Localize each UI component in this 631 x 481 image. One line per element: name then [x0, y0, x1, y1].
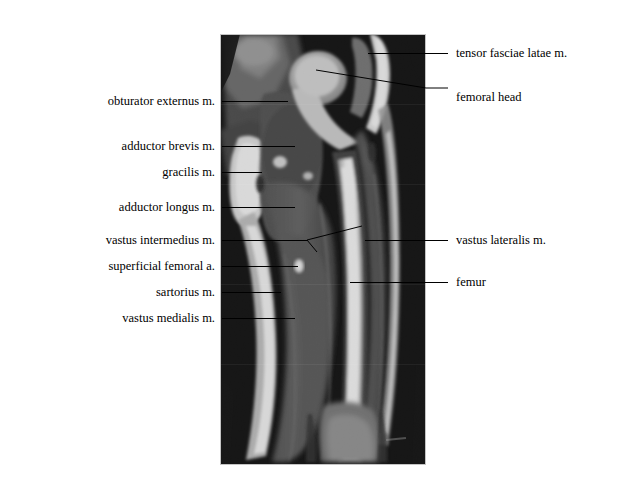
label-text: obturator externus m. [108, 94, 215, 108]
label-gracilis: gracilis m. [162, 166, 215, 179]
label-obturator-externus: obturator externus m. [108, 95, 215, 108]
label-vastus-lateralis: vastus lateralis m. [456, 234, 546, 247]
label-text: sartorius m. [156, 285, 215, 299]
label-femoral-head: femoral head [456, 91, 522, 104]
label-vastus-medialis: vastus medialis m. [122, 312, 215, 325]
mri-scan-image [220, 34, 426, 465]
label-text: femoral head [456, 90, 522, 104]
label-sartorius: sartorius m. [156, 286, 215, 299]
label-vastus-intermedius: vastus intermedius m. [106, 234, 215, 247]
label-tensor-fasciae-latae: tensor fasciae latae m. [456, 47, 567, 60]
label-superficial-femoral-artery: superficial femoral a. [108, 260, 215, 273]
label-text: adductor longus m. [119, 200, 215, 214]
label-femur: femur [456, 276, 486, 289]
label-adductor-brevis: adductor brevis m. [122, 140, 215, 153]
anatomy-figure: obturator externus m. adductor brevis m.… [0, 0, 631, 481]
label-text: femur [456, 275, 486, 289]
label-text: vastus intermedius m. [106, 233, 215, 247]
label-text: vastus medialis m. [122, 311, 215, 325]
label-text: adductor brevis m. [122, 139, 215, 153]
label-text: tensor fasciae latae m. [456, 46, 567, 60]
label-adductor-longus: adductor longus m. [119, 201, 215, 214]
label-text: superficial femoral a. [108, 259, 215, 273]
label-text: gracilis m. [162, 165, 215, 179]
label-text: vastus lateralis m. [456, 233, 546, 247]
